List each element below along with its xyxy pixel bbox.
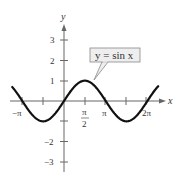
y-tick-2: 2 xyxy=(50,56,55,66)
x-tick-pi: π xyxy=(102,108,107,118)
sine-chart: x −π π 2 π 2π y xyxy=(0,0,186,182)
x-tick-pi-half-den: 2 xyxy=(82,119,87,129)
y-tick-1: 1 xyxy=(50,76,55,86)
y-tick-3: 3 xyxy=(50,35,55,45)
y-axis: y 3 2 1 −2 −3 xyxy=(44,11,68,172)
callout-label: y = sin x xyxy=(95,49,134,61)
x-tick-neg-pi: −π xyxy=(12,108,22,118)
y-tick-neg-3: −3 xyxy=(44,157,54,167)
y-tick-neg-2: −2 xyxy=(44,137,54,147)
x-axis-arrow-icon xyxy=(159,99,166,104)
x-tick-pi-half-num: π xyxy=(82,107,87,117)
x-tick-2pi: 2π xyxy=(142,108,152,118)
y-axis-label: y xyxy=(60,11,66,22)
y-axis-arrow-icon xyxy=(62,24,67,31)
callout: y = sin x xyxy=(90,48,140,80)
x-axis-label: x xyxy=(167,95,173,106)
